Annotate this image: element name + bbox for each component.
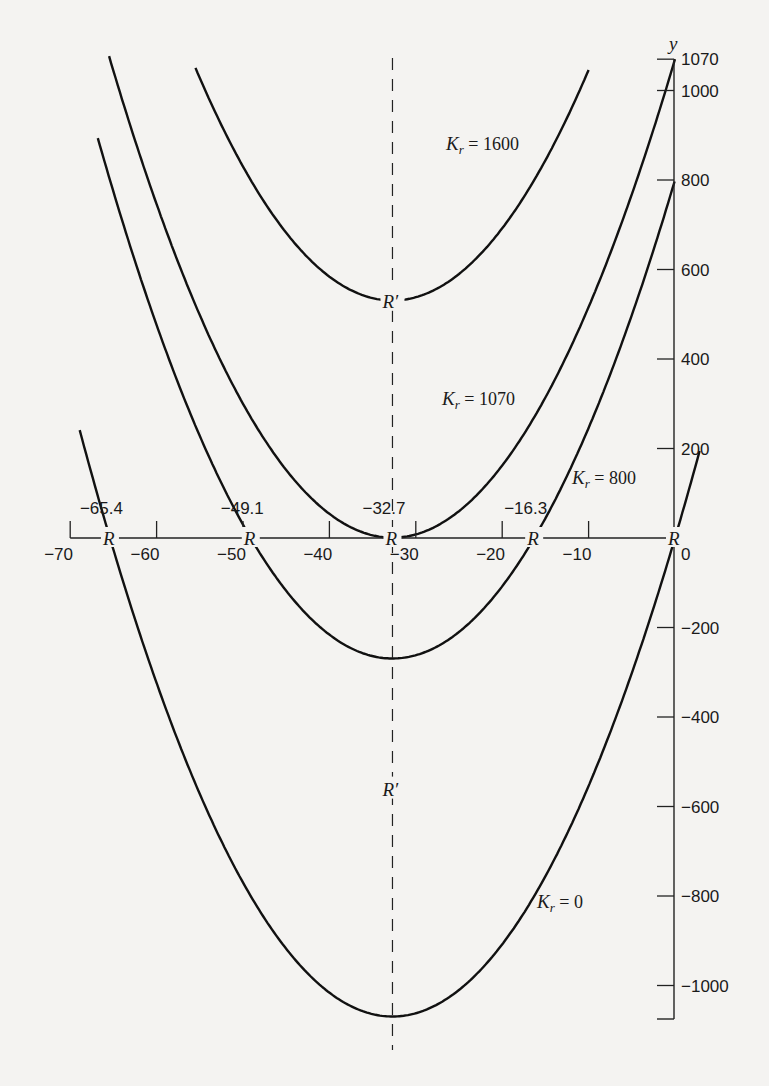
x-tick-label: −60 <box>131 545 160 564</box>
root-annotation: −49.1 <box>221 499 264 518</box>
y-tick-label: −200 <box>681 619 719 638</box>
curve-label-kr-800: Kr = 800 <box>571 467 636 491</box>
vertex-marker: R′ <box>381 779 399 800</box>
x-tick-label: −70 <box>44 545 73 564</box>
y-tick-label: −800 <box>681 887 719 906</box>
root-marker: R <box>384 528 397 549</box>
x-tick-label: −50 <box>217 545 246 564</box>
x-tick-label: 0 <box>681 545 690 564</box>
root-annotation: −65.4 <box>80 499 123 518</box>
y-axis-label: y <box>667 33 678 54</box>
y-tick-label: 1070 <box>681 50 719 69</box>
y-tick-label: 600 <box>681 261 709 280</box>
y-tick-label: −600 <box>681 798 719 817</box>
root-marker: R <box>102 528 115 549</box>
y-tick-label: −400 <box>681 708 719 727</box>
root-marker: R <box>667 528 680 549</box>
curve-label-kr-0: Kr = 0 <box>536 891 583 915</box>
y-tick-label: 200 <box>681 440 709 459</box>
root-marker: R <box>243 528 256 549</box>
x-tick-label: −20 <box>476 545 505 564</box>
x-tick-label: −40 <box>303 545 332 564</box>
curve-label-kr-1070: Kr = 1070 <box>441 388 515 412</box>
root-annotation: −32.7 <box>362 499 405 518</box>
y-tick-label: 800 <box>681 171 709 190</box>
vertex-marker: R′ <box>381 291 399 312</box>
curve-kr-800 <box>98 138 675 658</box>
curve-kr-0 <box>80 430 700 1016</box>
root-annotation: −16.3 <box>504 499 547 518</box>
root-marker: R <box>526 528 539 549</box>
y-tick-label: 400 <box>681 350 709 369</box>
curve-label-kr-1600: Kr = 1600 <box>445 133 519 157</box>
x-tick-label: −10 <box>563 545 592 564</box>
y-tick-label: −1000 <box>681 977 729 996</box>
root-locus-chart: 10701000800600400200−200−400−600−800−100… <box>0 0 769 1086</box>
y-tick-label: 1000 <box>681 82 719 101</box>
